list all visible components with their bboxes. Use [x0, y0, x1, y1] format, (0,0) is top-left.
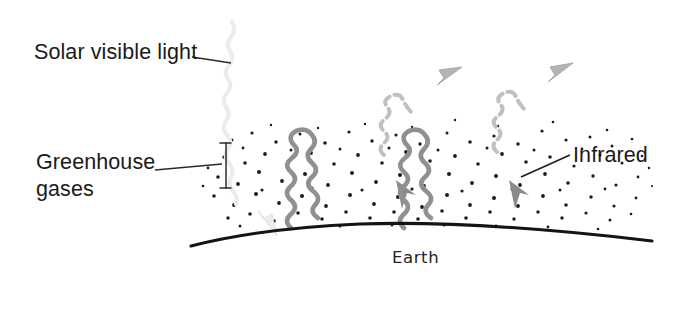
earth-ground-area — [185, 224, 665, 317]
infrared-label: Infrared — [573, 143, 648, 168]
greenhouse-gases-label-line2: gases — [36, 177, 94, 202]
greenhouse-gases-label-line1: Greenhouse — [36, 150, 155, 175]
earth-label: Earth — [392, 248, 439, 267]
solar-visible-light-label: Solar visible light — [34, 40, 197, 65]
greenhouse-effect-figure: Solar visible light Greenhouse gases Inf… — [0, 0, 682, 317]
